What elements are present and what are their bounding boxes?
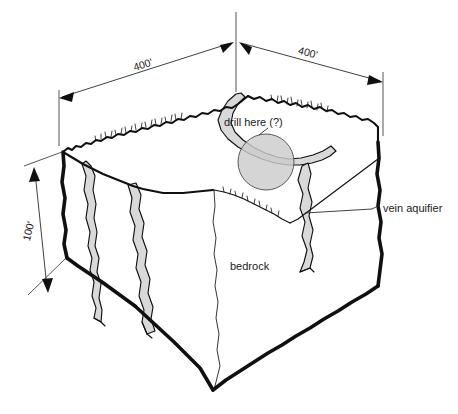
dim-line-top-left	[62, 43, 231, 97]
arrowhead-vert-bottom	[42, 278, 53, 293]
arrowhead-left-inner	[220, 42, 234, 53]
dimension-label-left: 400'	[132, 56, 154, 73]
dimension-label-vertical: 100'	[20, 220, 36, 242]
arrowhead-left-outer	[59, 92, 74, 102]
label-drill-here: drill here (?)	[224, 116, 283, 128]
arrowhead-right-outer	[367, 75, 383, 85]
label-vein-aquifier: vein aquifier	[383, 202, 443, 214]
figure-root: 400' 400' 100' drill here (?)	[0, 0, 458, 414]
arrowhead-vert-top	[29, 167, 40, 182]
dim-ext-vert-top	[24, 152, 62, 166]
dim-line-vertical	[35, 172, 47, 288]
block-diagram: 400' 400' 100' drill here (?)	[0, 0, 458, 414]
drill-target-circle[interactable]	[238, 134, 294, 190]
dimension-label-right: 400'	[297, 44, 319, 61]
dimension-left-vertical: 100'	[20, 152, 66, 295]
label-bedrock: bedrock	[230, 260, 270, 272]
